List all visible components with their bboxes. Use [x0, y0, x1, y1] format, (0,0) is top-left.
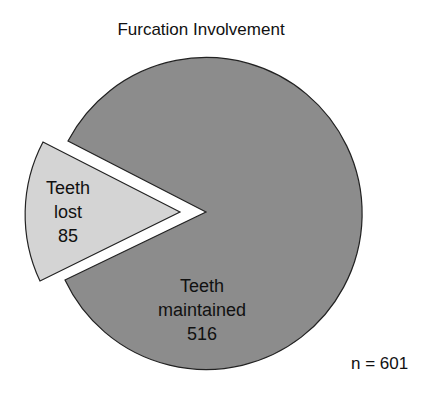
slice-label-lost-line1: Teeth	[46, 178, 90, 198]
slice-label-maintained-line1: Teeth	[180, 276, 224, 296]
pie-chart: Teeth lost 85 Teeth maintained 516	[0, 0, 445, 402]
slice-value-lost: 85	[58, 226, 78, 246]
sample-size-label: n = 601	[351, 354, 408, 374]
slice-label-lost-line2: lost	[54, 202, 82, 222]
slice-label-maintained-line2: maintained	[158, 300, 246, 320]
slice-value-maintained: 516	[187, 324, 217, 344]
